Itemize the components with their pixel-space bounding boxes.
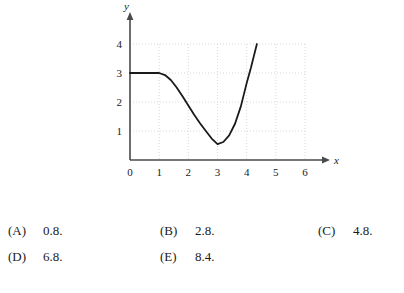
ytick-label-2: 2: [117, 96, 123, 108]
answer-choice-c-value: 4.8.: [353, 219, 373, 243]
ytick-label-3: 3: [117, 67, 123, 79]
xtick-label-1: 1: [156, 166, 162, 178]
x-axis-arrowhead: [322, 157, 330, 164]
xtick-label-2: 2: [186, 166, 192, 178]
answer-choice-b-value: 2.8.: [195, 219, 215, 243]
answer-choice-a-value: 0.8.: [43, 219, 63, 243]
xtick-label-5: 5: [273, 166, 279, 178]
x-axis-label: x: [333, 154, 339, 166]
answer-choice-a-tag: (A): [8, 219, 34, 243]
xtick-label-6: 6: [302, 166, 308, 178]
xtick-label-3: 3: [215, 166, 221, 178]
answer-choice-b[interactable]: (B)2.8.: [160, 219, 215, 243]
answer-choice-e-value: 8.4.: [195, 245, 215, 269]
answer-choice-d-tag: (D): [8, 245, 34, 269]
xtick-label-0: 0: [127, 166, 133, 178]
xtick-label-4: 4: [244, 166, 250, 178]
answer-choice-a[interactable]: (A)0.8.: [8, 219, 63, 243]
answer-choice-b-tag: (B): [160, 219, 186, 243]
coordinate-plot: x y 0 1 2 3 4 5 6 1 2 3 4: [0, 0, 404, 200]
answer-choices: (A)0.8. (B)2.8. (C)4.8. (D)6.8. (E)8.4.: [0, 205, 404, 293]
answer-choice-c[interactable]: (C)4.8.: [318, 219, 373, 243]
answer-choice-row: (D)6.8. (E)8.4.: [0, 245, 404, 269]
answer-choice-d-value: 6.8.: [43, 245, 63, 269]
horizontal-gridlines: [130, 44, 305, 131]
answer-choice-e[interactable]: (E)8.4.: [160, 245, 215, 269]
answer-choice-d[interactable]: (D)6.8.: [8, 245, 63, 269]
x-axis: [130, 157, 330, 164]
y-axis-label: y: [123, 0, 129, 12]
answer-choice-e-tag: (E): [160, 245, 186, 269]
y-axis: [127, 12, 134, 160]
ytick-label-4: 4: [117, 38, 123, 50]
answer-choice-c-tag: (C): [318, 219, 344, 243]
ytick-label-1: 1: [117, 125, 123, 137]
y-axis-arrowhead: [127, 12, 134, 20]
graph-figure: x y 0 1 2 3 4 5 6 1 2 3 4: [0, 0, 404, 200]
curve-line: [130, 44, 257, 144]
answer-choice-row: (A)0.8. (B)2.8. (C)4.8.: [0, 219, 404, 243]
